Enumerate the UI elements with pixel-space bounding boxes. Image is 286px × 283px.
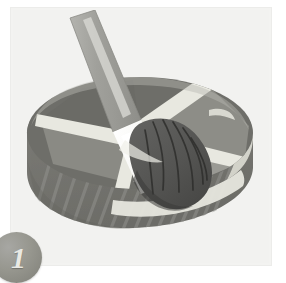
illustration-panel [13, 10, 269, 263]
step-number-badge: 1 [0, 232, 42, 283]
illustration-artwork [13, 10, 269, 263]
step-number-label: 1 [0, 232, 42, 283]
